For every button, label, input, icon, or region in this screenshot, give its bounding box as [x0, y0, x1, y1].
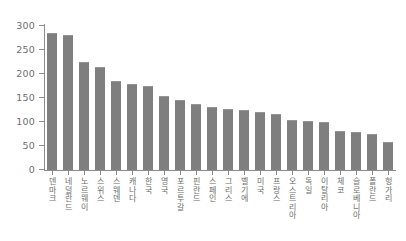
- bar[interactable]: [111, 81, 121, 170]
- x-axis-category-label: 스위스: [96, 178, 105, 204]
- x-axis-category-label: 포르투갈: [176, 178, 185, 212]
- bar-slot: [255, 20, 265, 170]
- bar[interactable]: [79, 62, 89, 170]
- x-axis-category-label: 프랑스: [272, 178, 281, 204]
- y-axis-tick-label: 150: [16, 92, 35, 103]
- bar-slot: [175, 20, 185, 170]
- bar-slot: [111, 20, 121, 170]
- x-axis-category-label: 미국: [256, 178, 265, 195]
- bar-slot: [95, 20, 105, 170]
- y-axis-tick-label: 100: [16, 116, 35, 127]
- bar[interactable]: [319, 122, 329, 170]
- x-axis-category-label: 헝가리: [384, 178, 393, 204]
- bar-series: [44, 20, 396, 170]
- y-axis-tick: 200: [0, 68, 44, 79]
- x-axis-tick-mark: [52, 170, 53, 175]
- x-axis-tick-mark: [180, 170, 181, 175]
- y-axis-tick: 0: [0, 164, 44, 175]
- y-axis-tick-label: 300: [16, 20, 35, 31]
- y-axis-tick: 250: [0, 44, 44, 55]
- x-axis-category-label: 네덜란드: [64, 178, 73, 212]
- x-axis-tick-mark: [292, 170, 293, 175]
- bar[interactable]: [303, 121, 313, 170]
- x-axis-tick-mark: [116, 170, 117, 175]
- y-axis-tick: 50: [0, 140, 44, 151]
- bar[interactable]: [239, 110, 249, 170]
- bar[interactable]: [159, 96, 169, 170]
- bar[interactable]: [271, 114, 281, 170]
- y-axis-tick-label: 250: [16, 44, 35, 55]
- y-axis-tick: 150: [0, 92, 44, 103]
- x-axis-category-label: 덴마크: [48, 178, 57, 204]
- x-axis-category-label: 슬로베니아: [352, 178, 361, 221]
- bar[interactable]: [95, 67, 105, 170]
- x-axis-category-label: 그리스: [224, 178, 233, 204]
- bar[interactable]: [143, 86, 153, 170]
- x-axis-tick-mark: [196, 170, 197, 175]
- x-axis-tick-mark: [212, 170, 213, 175]
- bar[interactable]: [223, 109, 233, 170]
- x-axis-tick-mark: [308, 170, 309, 175]
- bar[interactable]: [383, 142, 393, 170]
- x-axis-tick-mark: [260, 170, 261, 175]
- x-axis-tick-mark: [276, 170, 277, 175]
- x-axis-category-label: 독일: [304, 178, 313, 195]
- x-axis-tick-mark: [148, 170, 149, 175]
- bar[interactable]: [351, 132, 361, 170]
- bar-slot: [303, 20, 313, 170]
- bar-slot: [143, 20, 153, 170]
- bar[interactable]: [335, 131, 345, 170]
- bar[interactable]: [127, 84, 137, 170]
- x-axis-tick-mark: [164, 170, 165, 175]
- x-axis-category-label: 스페인: [208, 178, 217, 204]
- bar-slot: [207, 20, 217, 170]
- bar-slot: [191, 20, 201, 170]
- x-axis-category-label: 이탈리아: [320, 178, 329, 212]
- bar-slot: [239, 20, 249, 170]
- x-axis-tick-mark: [372, 170, 373, 175]
- x-axis-tick-mark: [244, 170, 245, 175]
- bar-slot: [159, 20, 169, 170]
- x-axis-category-label: 노르웨이: [80, 178, 89, 212]
- bar[interactable]: [191, 104, 201, 170]
- y-axis-tick-label: 0: [29, 164, 35, 175]
- x-axis-category-label: 한국: [144, 178, 153, 195]
- bar-slot: [335, 20, 345, 170]
- x-axis-category-label: 체코: [336, 178, 345, 195]
- bar[interactable]: [287, 120, 297, 170]
- bar[interactable]: [47, 33, 57, 170]
- y-axis-tick: 300: [0, 20, 44, 31]
- y-axis-tick: 100: [0, 116, 44, 127]
- x-axis-tick-mark: [132, 170, 133, 175]
- bar-slot: [319, 20, 329, 170]
- x-axis-category-label: 캐나다: [128, 178, 137, 204]
- x-axis-category-label: 스웨덴: [112, 178, 121, 204]
- y-axis-tick-label: 50: [23, 140, 36, 151]
- x-axis-tick-mark: [84, 170, 85, 175]
- bar-slot: [127, 20, 137, 170]
- x-axis-category-label: 벨기에: [240, 178, 249, 204]
- x-axis-tick-mark: [388, 170, 389, 175]
- x-axis-tick-mark: [228, 170, 229, 175]
- x-axis-labels: 덴마크네덜란드노르웨이스위스스웨덴캐나다한국영국포르투갈핀란드스페인그리스벨기에…: [44, 178, 396, 240]
- x-axis-tick-mark: [100, 170, 101, 175]
- bar-slot: [223, 20, 233, 170]
- y-axis-tick-label: 200: [16, 68, 35, 79]
- bar-chart: 050100150200250300 덴마크네덜란드노르웨이스위스스웨덴캐나다한…: [0, 0, 406, 241]
- bar[interactable]: [207, 107, 217, 170]
- x-axis-tick-mark: [340, 170, 341, 175]
- x-axis-category-label: 영국: [160, 178, 169, 195]
- bar-slot: [79, 20, 89, 170]
- x-axis-category-label: 핀란드: [192, 178, 201, 204]
- x-axis-tick-mark: [324, 170, 325, 175]
- bar-slot: [47, 20, 57, 170]
- x-axis-category-label: 오스트리아: [288, 178, 297, 221]
- bar[interactable]: [255, 112, 265, 170]
- bar-slot: [271, 20, 281, 170]
- bar[interactable]: [367, 134, 377, 170]
- bar-slot: [287, 20, 297, 170]
- bar-slot: [351, 20, 361, 170]
- bar[interactable]: [63, 35, 73, 170]
- x-axis-ticks: [44, 170, 396, 175]
- bar[interactable]: [175, 100, 185, 170]
